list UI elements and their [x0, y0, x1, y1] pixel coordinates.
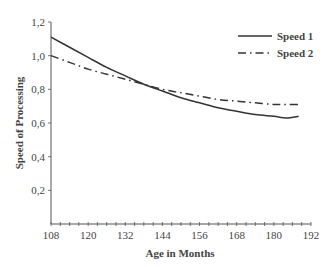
x-tick-label: 108 — [43, 229, 60, 241]
x-tick-label: 168 — [228, 229, 245, 241]
x-tick-label: 180 — [266, 229, 283, 241]
line-chart: 1081201321441561681801920,20,40,60,81,01… — [0, 0, 330, 267]
x-tick-label: 144 — [154, 229, 171, 241]
series-line-speed-1 — [51, 37, 299, 118]
legend: Speed 1 Speed 2 — [238, 30, 314, 59]
legend-label-speed-1: Speed 1 — [277, 30, 313, 42]
y-axis-label: Speed of Processing — [13, 76, 25, 169]
series-line-speed-2 — [51, 56, 299, 105]
y-tick-label: 0,6 — [31, 117, 45, 129]
x-tick-label: 192 — [303, 229, 320, 241]
y-tick-label: 0,8 — [31, 83, 45, 95]
x-tick-label: 132 — [117, 229, 134, 241]
chart-svg: 1081201321441561681801920,20,40,60,81,01… — [0, 0, 330, 267]
y-tick-label: 1,2 — [31, 16, 45, 28]
x-tick-label: 120 — [80, 229, 97, 241]
y-tick-label: 1,0 — [31, 50, 45, 62]
x-tick-label: 156 — [191, 229, 208, 241]
y-tick-label: 0,4 — [31, 151, 45, 163]
plot-lines — [51, 37, 299, 118]
legend-label-speed-2: Speed 2 — [277, 47, 314, 59]
y-tick-label: 0,2 — [31, 184, 45, 196]
x-axis-label: Age in Months — [145, 247, 215, 259]
